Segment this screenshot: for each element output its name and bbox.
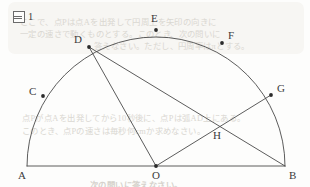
point-label-c: C (29, 86, 36, 97)
boxed-figure-icon (13, 11, 25, 23)
point-marker-f (220, 41, 224, 45)
point-label-a: A (18, 170, 26, 181)
chord-DB (89, 47, 285, 166)
point-label-e: E (151, 13, 158, 24)
semicircular-arc (27, 37, 285, 166)
point-label-d: D (74, 34, 82, 45)
point-label-o: O (152, 170, 160, 181)
radius-OD (89, 47, 156, 166)
point-marker-d (87, 45, 91, 49)
figure-container: ここで、点Pは点Aを出発して円周上を矢印の向きに 一定の速さで動くものとする。こ… (0, 0, 310, 187)
figure-caption: 1 (13, 11, 33, 23)
point-marker-o (154, 164, 158, 168)
point-marker-c (41, 94, 45, 98)
figure-caption-number: 1 (28, 12, 33, 23)
point-label-g: G (277, 83, 285, 94)
semicircle-geometry-figure (0, 0, 310, 187)
point-label-b: B (289, 170, 296, 181)
point-label-h: H (213, 130, 221, 141)
point-marker-e (154, 28, 158, 32)
point-marker-g (269, 93, 273, 97)
point-label-f: F (228, 30, 234, 41)
